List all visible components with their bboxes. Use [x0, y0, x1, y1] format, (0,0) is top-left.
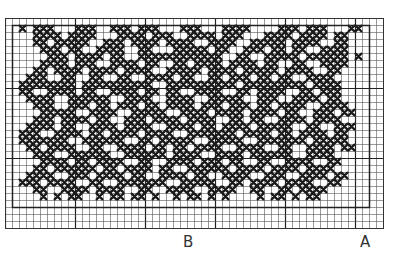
cross-stitch: [146, 103, 152, 109]
cross-stitch: [62, 131, 68, 137]
cross-stitch: [97, 96, 103, 102]
cross-stitch: [188, 54, 194, 60]
cross-stitch: [69, 68, 75, 74]
cross-stitch: [132, 103, 138, 109]
cross-stitch: [272, 180, 278, 186]
cross-stitch: [104, 138, 110, 144]
cross-stitch: [293, 47, 299, 53]
cross-stitch: [188, 117, 194, 123]
cross-stitch: [174, 159, 180, 165]
cross-stitch: [335, 61, 341, 67]
cross-stitch: [139, 152, 145, 158]
cross-stitch: [293, 82, 299, 88]
cross-stitch: [97, 159, 103, 165]
cross-stitch: [48, 145, 54, 151]
cross-stitch: [146, 40, 152, 46]
cross-stitch: [272, 47, 278, 53]
cross-stitch: [279, 166, 285, 172]
cross-stitch: [258, 138, 264, 144]
cross-stitch: [34, 96, 40, 102]
cross-stitch: [209, 159, 215, 165]
cross-stitch: [41, 33, 47, 39]
cross-stitch: [265, 33, 271, 39]
cross-stitch: [195, 180, 201, 186]
cross-stitch: [328, 180, 334, 186]
cross-stitch: [230, 68, 236, 74]
cross-stitch: [244, 145, 250, 151]
cross-stitch: [258, 131, 264, 137]
cross-stitch: [300, 33, 306, 39]
cross-stitch: [223, 40, 229, 46]
cross-stitch: [125, 180, 131, 186]
cross-stitch: [209, 187, 215, 193]
cross-stitch: [307, 180, 313, 186]
cross-stitch: [209, 54, 215, 60]
cross-stitch: [83, 33, 89, 39]
cross-stitch: [55, 180, 61, 186]
cross-stitch: [321, 166, 327, 172]
cross-stitch: [111, 40, 117, 46]
cross-stitch: [104, 103, 110, 109]
cross-stitch: [83, 82, 89, 88]
cross-stitch: [237, 173, 243, 179]
cross-stitch: [181, 82, 187, 88]
cross-stitch: [328, 159, 334, 165]
cross-stitch: [174, 96, 180, 102]
cross-stitch: [160, 117, 166, 123]
cross-stitch: [76, 40, 82, 46]
cross-stitch: [34, 180, 40, 186]
cross-stitch: [335, 33, 341, 39]
cross-stitch: [272, 96, 278, 102]
cross-stitch: [90, 180, 96, 186]
cross-stitch: [251, 166, 257, 172]
cross-stitch: [349, 26, 355, 32]
cross-stitch: [146, 159, 152, 165]
cross-stitch: [321, 145, 327, 151]
cross-stitch: [69, 33, 75, 39]
cross-stitch: [139, 110, 145, 116]
cross-stitch: [55, 61, 61, 67]
cross-stitch: [125, 68, 131, 74]
cross-stitch: [279, 152, 285, 158]
cross-stitch: [279, 131, 285, 137]
cross-stitch: [258, 103, 264, 109]
cross-stitch: [188, 75, 194, 81]
cross-stitch: [300, 131, 306, 137]
cross-stitch: [69, 47, 75, 53]
cross-stitch: [111, 110, 117, 116]
cross-stitch: [104, 117, 110, 123]
cross-stitch: [48, 103, 54, 109]
cross-stitch: [328, 47, 334, 53]
cross-stitch: [139, 117, 145, 123]
cross-stitch: [251, 82, 257, 88]
cross-stitch: [160, 173, 166, 179]
cross-stitch: [195, 110, 201, 116]
cross-stitch: [314, 152, 320, 158]
cross-stitch: [174, 89, 180, 95]
cross-stitch: [48, 173, 54, 179]
cross-stitch: [76, 26, 82, 32]
cross-stitch: [258, 159, 264, 165]
cross-stitch: [265, 103, 271, 109]
cross-stitch: [216, 103, 222, 109]
cross-stitch: [230, 117, 236, 123]
cross-stitch: [76, 173, 82, 179]
cross-stitch: [307, 75, 313, 81]
cross-stitch: [76, 61, 82, 67]
cross-stitch: [41, 166, 47, 172]
cross-stitch: [314, 138, 320, 144]
cross-stitch: [139, 194, 145, 200]
cross-stitch: [223, 194, 229, 200]
cross-stitch: [335, 82, 341, 88]
cross-stitch: [195, 131, 201, 137]
cross-stitch: [209, 33, 215, 39]
cross-stitch: [48, 159, 54, 165]
cross-stitch: [328, 138, 334, 144]
cross-stitch: [237, 166, 243, 172]
cross-stitch: [90, 89, 96, 95]
cross-stitch: [279, 173, 285, 179]
cross-stitch: [76, 103, 82, 109]
cross-stitch: [34, 145, 40, 151]
cross-stitch: [300, 173, 306, 179]
cross-stitch: [279, 54, 285, 60]
